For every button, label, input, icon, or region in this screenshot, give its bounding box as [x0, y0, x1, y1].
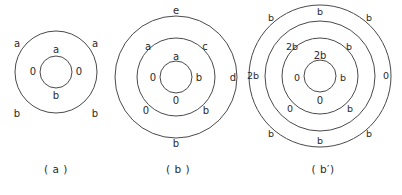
figure-panel-a: a a a 0 0 b b b ( a )	[0, 0, 112, 195]
label-inner-left: 0	[150, 72, 156, 83]
figure-root: a a a 0 0 b b b ( a ) e a c a	[0, 0, 402, 195]
label-inner-bottom: 0	[173, 95, 179, 106]
label-middle-top-left: a	[145, 41, 151, 52]
label-outer-left: 2b	[247, 70, 259, 81]
caption-b: ( b )	[112, 163, 244, 175]
label-inner-top: a	[53, 44, 59, 55]
label-inner-bottom: b	[53, 90, 59, 101]
label-third-top-left: 2b	[286, 41, 298, 52]
label-third-bottom-right: b	[347, 103, 353, 114]
label-outer-bottom-right: b	[366, 128, 372, 139]
labels-a: a a a 0 0 b b b	[14, 38, 98, 119]
label-inner-top: 2b	[314, 50, 327, 61]
label-middle-top-right: c	[202, 41, 208, 52]
inner-circle	[40, 56, 72, 88]
label-inner-top: a	[173, 51, 179, 62]
label-inner-right: b	[340, 72, 346, 83]
outer-circle	[115, 16, 237, 138]
label-outer-bottom-right: b	[92, 108, 98, 119]
label-second-bottom: b	[317, 135, 323, 146]
inner-circle	[160, 61, 192, 93]
label-outer-top-right: b	[366, 12, 372, 23]
label-middle-bottom-left: 0	[143, 105, 149, 116]
label-third-top-right: b	[346, 41, 352, 52]
figure-panel-b: e a c a 0 b d 0 0 b b ( b )	[112, 0, 244, 195]
label-outer-top-left: a	[14, 38, 20, 49]
label-outer-right: 0	[383, 70, 389, 81]
label-outer-top: e	[173, 5, 179, 16]
label-outer-bottom-left: b	[14, 108, 20, 119]
figure-panel-b-prime: b b b 2b b 2b 2b 0 b 0 0 0 b b b b ( b′)	[244, 0, 402, 195]
caption-a: ( a )	[0, 163, 112, 175]
label-outer-top-right: a	[92, 38, 98, 49]
label-inner-bottom: 0	[317, 95, 323, 106]
label-second-top: b	[317, 6, 323, 17]
inner-circle	[304, 60, 336, 92]
label-inner-right: 0	[76, 66, 82, 77]
circles-b-prime	[249, 5, 391, 147]
outer-circle	[249, 5, 391, 147]
labels-b: e a c a 0 b d 0 0 b b	[143, 5, 236, 149]
label-outer-top-left: b	[268, 12, 274, 23]
label-inner-left: 0	[30, 66, 36, 77]
label-outer-bottom: b	[173, 138, 179, 149]
caption-b-prime: ( b′)	[244, 163, 402, 175]
label-inner-right: b	[196, 72, 202, 83]
label-middle-bottom-right: b	[203, 105, 209, 116]
label-outer-right: d	[230, 72, 236, 83]
label-outer-bottom-left: b	[268, 128, 274, 139]
circles-b	[115, 16, 237, 138]
label-third-bottom-left: 0	[287, 103, 293, 114]
label-inner-left: 0	[294, 72, 300, 83]
